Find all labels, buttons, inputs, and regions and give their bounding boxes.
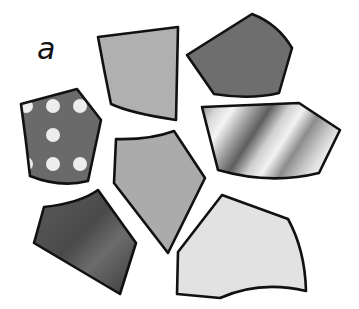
pieces-canvas <box>0 0 359 309</box>
shape-pieces-figure: a <box>0 0 359 309</box>
metallic-piece <box>202 103 340 178</box>
light-gray-piece <box>177 195 306 298</box>
dark-pentagon-piece <box>187 14 292 97</box>
polka-dot-piece <box>21 89 101 184</box>
top-gray-piece <box>98 27 178 120</box>
dark-gradient-piece <box>34 190 136 294</box>
